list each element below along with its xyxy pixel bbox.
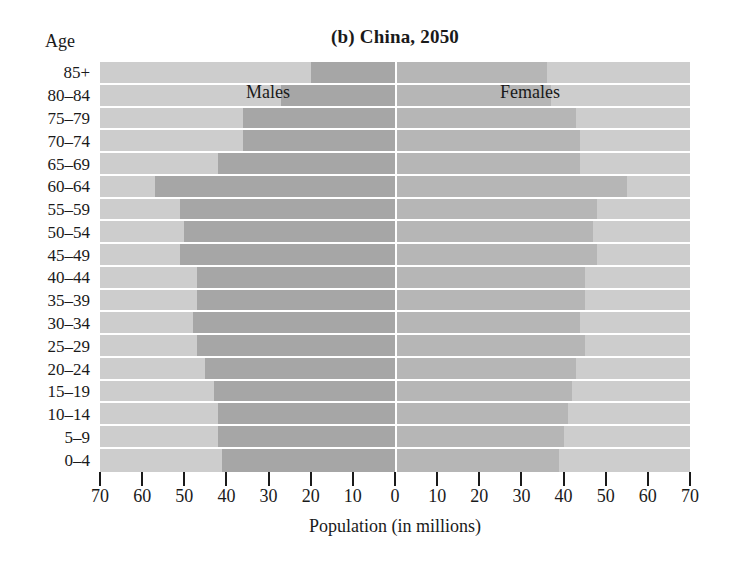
- bar-female: [395, 221, 593, 242]
- age-tick-label: 75–79: [48, 110, 91, 127]
- age-tick-label-group: 85+80–8475–7970–7465–6960–6455–5950–5445…: [0, 62, 94, 472]
- bar-female: [395, 130, 580, 151]
- bar-male: [184, 221, 395, 242]
- x-axis-tick-label-group: 70605040302010010203040506070: [0, 486, 729, 512]
- bar-male: [205, 358, 395, 379]
- bar-female: [395, 290, 585, 311]
- x-axis-tick-label: 20: [470, 486, 488, 507]
- bar-male: [222, 449, 395, 472]
- series-label-females: Females: [500, 82, 560, 103]
- bar-male: [197, 290, 395, 311]
- bar-male: [180, 199, 395, 220]
- bar-female: [395, 449, 559, 472]
- bar-male: [214, 381, 395, 402]
- x-axis-tick: [141, 472, 143, 486]
- x-axis-tick-label: 50: [597, 486, 615, 507]
- x-axis-tick: [183, 472, 185, 486]
- age-tick-label: 45–49: [48, 247, 91, 264]
- age-axis-heading: Age: [45, 31, 75, 52]
- bar-female: [395, 108, 576, 129]
- age-tick-label: 25–29: [48, 338, 91, 355]
- age-tick-label: 80–84: [48, 87, 91, 104]
- age-tick-label: 0–4: [65, 452, 91, 469]
- series-label-males: Males: [246, 82, 290, 103]
- plot-area: Males Females: [100, 62, 690, 472]
- bar-male: [218, 426, 395, 447]
- bar-female: [395, 335, 585, 356]
- x-axis-tick-label: 40: [555, 486, 573, 507]
- bar-female: [395, 62, 547, 83]
- bar-female: [395, 176, 627, 197]
- chart-title: (b) China, 2050: [100, 26, 690, 48]
- x-axis-tick: [605, 472, 607, 486]
- x-axis-tick-label: 60: [639, 486, 657, 507]
- x-axis-tick: [563, 472, 565, 486]
- x-axis-tick: [394, 472, 396, 486]
- x-axis-tick-label: 60: [133, 486, 151, 507]
- age-tick-label: 85+: [63, 64, 90, 81]
- bar-male: [180, 244, 395, 265]
- x-axis-tick-label: 70: [91, 486, 109, 507]
- x-axis-tick: [99, 472, 101, 486]
- x-axis-tick: [225, 472, 227, 486]
- age-tick-label: 60–64: [48, 178, 91, 195]
- bar-female: [395, 199, 597, 220]
- age-tick-label: 55–59: [48, 201, 91, 218]
- x-axis-tick-label: 30: [260, 486, 278, 507]
- bar-female: [395, 358, 576, 379]
- x-axis-tick-label: 30: [512, 486, 530, 507]
- x-axis-tick: [520, 472, 522, 486]
- bar-female: [395, 267, 585, 288]
- x-axis-title: Population (in millions): [100, 516, 690, 537]
- x-axis-tick: [478, 472, 480, 486]
- bar-female: [395, 312, 580, 333]
- bar-male: [193, 312, 395, 333]
- x-axis-tick: [647, 472, 649, 486]
- population-pyramid-figure: Age (b) China, 2050 85+80–8475–7970–7465…: [0, 0, 729, 570]
- bar-female: [395, 153, 580, 174]
- bar-female: [395, 426, 564, 447]
- x-axis-tick-label: 20: [302, 486, 320, 507]
- x-axis-tick-label: 10: [344, 486, 362, 507]
- bar-female: [395, 381, 572, 402]
- bar-male: [243, 130, 395, 151]
- bar-male: [218, 153, 395, 174]
- bar-male: [197, 335, 395, 356]
- x-axis-tick-label: 40: [217, 486, 235, 507]
- x-axis-tick-group: [100, 472, 690, 486]
- x-axis-tick: [436, 472, 438, 486]
- x-axis-tick: [689, 472, 691, 486]
- age-tick-label: 35–39: [48, 292, 91, 309]
- age-tick-label: 15–19: [48, 383, 91, 400]
- age-tick-label: 70–74: [48, 133, 91, 150]
- x-axis-tick-label: 10: [428, 486, 446, 507]
- x-axis-tick-label: 70: [681, 486, 699, 507]
- bar-male: [197, 267, 395, 288]
- bar-male: [243, 108, 395, 129]
- age-tick-label: 20–24: [48, 361, 91, 378]
- bar-male: [155, 176, 395, 197]
- bar-female: [395, 403, 568, 424]
- x-axis-tick-label: 0: [391, 486, 400, 507]
- x-axis-tick: [310, 472, 312, 486]
- age-tick-label: 30–34: [48, 315, 91, 332]
- age-tick-label: 65–69: [48, 156, 91, 173]
- age-tick-label: 40–44: [48, 269, 91, 286]
- bar-female: [395, 244, 597, 265]
- bar-male: [218, 403, 395, 424]
- x-axis-tick: [268, 472, 270, 486]
- x-axis-tick-label: 50: [175, 486, 193, 507]
- bar-male: [311, 62, 395, 83]
- x-axis-tick: [352, 472, 354, 486]
- bar-male: [281, 85, 395, 106]
- age-tick-label: 5–9: [65, 429, 91, 446]
- age-tick-label: 50–54: [48, 224, 91, 241]
- age-tick-label: 10–14: [48, 406, 91, 423]
- zero-axis-line: [395, 62, 397, 472]
